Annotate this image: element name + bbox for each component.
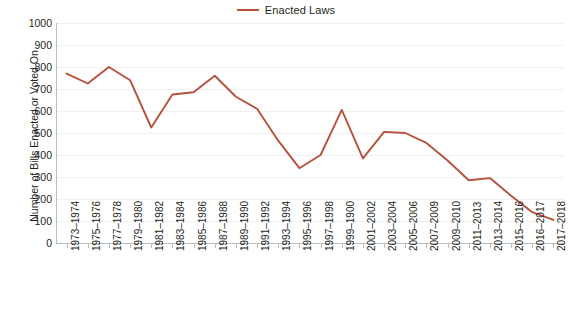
x-tick-mark-14 [363,243,364,248]
y-tick-label-600: 600 [8,106,52,117]
x-tick-mark-2 [109,243,110,248]
x-tick-mark-19 [469,243,470,248]
legend-line-swatch-icon [237,9,259,11]
x-tick-label-3: 1979–1980 [134,201,144,251]
x-tick-label-14: 2001–2002 [367,201,377,251]
legend-label-enacted-laws: Enacted Laws [265,4,335,16]
x-tick-label-23: 2017–2018 [557,201,567,251]
y-tick-label-700: 700 [8,84,52,95]
x-tick-label-11: 1995–1996 [303,201,313,251]
y-axis-spine [56,23,57,244]
x-tick-mark-6 [194,243,195,248]
y-tick-label-400: 400 [8,150,52,161]
x-tick-label-7: 1987–1988 [219,201,229,251]
x-tick-label-22: 2016–2017 [536,201,546,251]
chart-legend: Enacted Laws [0,4,572,16]
x-tick-label-19: 2011–2013 [473,202,483,251]
y-tick-label-500: 500 [8,128,52,139]
x-tick-label-1: 1975–1976 [92,201,102,251]
x-tick-mark-9 [257,243,258,248]
x-tick-label-16: 2005–2006 [409,201,419,251]
x-tick-mark-12 [321,243,322,248]
x-tick-mark-4 [151,243,152,248]
y-tick-label-800: 800 [8,62,52,73]
x-tick-mark-1 [88,243,89,248]
x-tick-label-10: 1993–1994 [282,201,292,251]
x-tick-mark-0 [67,243,68,248]
x-tick-mark-18 [448,243,449,248]
y-tick-label-300: 300 [8,172,52,183]
x-tick-label-15: 2003–2004 [388,201,398,251]
x-tick-mark-10 [278,243,279,248]
line-chart: Enacted Laws Number of Bills Enacted or … [0,0,572,330]
x-tick-mark-15 [384,243,385,248]
x-tick-label-6: 1985–1986 [198,201,208,251]
x-tick-label-12: 1997–1998 [325,201,335,251]
x-tick-label-0: 1973–1974 [71,201,81,251]
x-tick-mark-20 [490,243,491,248]
y-tick-label-900: 900 [8,40,52,51]
y-tick-label-1000: 1000 [8,18,52,29]
x-tick-mark-21 [511,243,512,248]
x-tick-label-18: 2009–2010 [452,201,462,251]
x-tick-mark-23 [553,243,554,248]
x-tick-mark-5 [172,243,173,248]
x-tick-label-13: 1999–1900 [346,201,356,251]
x-tick-mark-3 [130,243,131,248]
x-tick-label-17: 2007–2009 [430,201,440,251]
y-tick-label-0: 0 [8,238,52,249]
y-tick-label-100: 100 [8,216,52,227]
x-tick-mark-11 [299,243,300,248]
x-tick-mark-13 [342,243,343,248]
series-line-enacted-laws [67,67,554,220]
x-tick-mark-8 [236,243,237,248]
x-tick-mark-22 [532,243,533,248]
x-tick-label-4: 1981–1982 [155,201,165,251]
x-tick-mark-7 [215,243,216,248]
x-tick-mark-17 [426,243,427,248]
y-tick-label-200: 200 [8,194,52,205]
x-tick-label-2: 1977–1978 [113,201,123,251]
x-tick-label-20: 2013–2014 [494,201,504,251]
x-tick-label-21: 2015–2016 [515,201,525,251]
x-tick-label-9: 1991–1992 [261,201,271,251]
x-tick-label-8: 1989–1990 [240,201,250,251]
x-tick-mark-16 [405,243,406,248]
x-tick-label-5: 1983–1984 [176,201,186,251]
